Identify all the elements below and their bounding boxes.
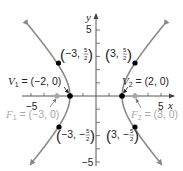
focus-1-rest: = (−3, 0) xyxy=(17,108,60,120)
point-pos3-neg52-label: ( 3, − 5 2 ) xyxy=(106,127,139,144)
point-label-coord: 3, xyxy=(110,47,119,59)
point-pos3-pos52-label: ( 3, 5 2 ) xyxy=(105,46,132,63)
vertex-1-label: V1 = (−2, 0) xyxy=(8,75,61,88)
axes: x y −5 5 5 −5 xyxy=(22,11,174,168)
paren-close: ) xyxy=(88,46,93,63)
focus-2-dot xyxy=(132,93,137,98)
vertex-1-pointer xyxy=(64,87,69,93)
hyperbola-diagram: x y −5 5 5 −5 F1 = (−3, 0) F2 = (3, 0) V… xyxy=(0,0,183,171)
focus-2-rest: = (3, 0) xyxy=(142,108,178,120)
vertex-1-dot xyxy=(67,93,73,99)
paren-close: ) xyxy=(134,127,139,144)
point-neg3-neg52-label: ( −3, − 5 2 ) xyxy=(56,127,95,144)
vertices: V1 = (−2, 0) V2 = (2, 0) xyxy=(8,75,169,99)
focus-1-label: F1 = (−3, 0) xyxy=(5,108,59,121)
point-pos3-pos52-dot xyxy=(132,60,137,65)
vertex-2-label: V2 = (2, 0) xyxy=(122,75,169,88)
foci: F1 = (−3, 0) F2 = (3, 0) xyxy=(5,93,178,121)
point-neg3-pos52-label: ( −3, 5 2 ) xyxy=(60,46,93,63)
focus-2-label: F2 = (3, 0) xyxy=(130,108,178,121)
focus-1-pointer xyxy=(50,99,56,107)
focus-1-dot xyxy=(54,93,59,98)
vertex-2-dot xyxy=(119,93,125,99)
y-tick-label-5: 5 xyxy=(86,24,92,35)
y-axis-label: y xyxy=(85,11,91,23)
vertex-1-rest: = (−2, 0) xyxy=(19,75,62,87)
paren-close: ) xyxy=(90,127,95,144)
point-label-coord: 3, − xyxy=(111,128,129,140)
focus-2-pointer xyxy=(136,99,141,108)
paren-close: ) xyxy=(127,46,132,63)
y-tick-label-neg5: −5 xyxy=(82,157,94,168)
point-label-coord: −3, xyxy=(65,47,80,59)
point-label-coord: −3, − xyxy=(61,128,85,140)
vertex-2-pointer xyxy=(124,87,129,93)
vertex-2-rest: = (2, 0) xyxy=(133,75,169,87)
